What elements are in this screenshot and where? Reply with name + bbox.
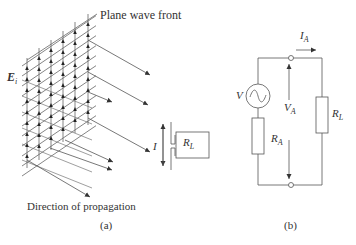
field-arrowhead <box>86 99 90 103</box>
load-resistor-b <box>316 97 328 133</box>
field-arrowhead <box>73 41 77 45</box>
field-arrowhead <box>49 81 53 85</box>
propagation-arrows <box>27 40 150 197</box>
field-arrowhead <box>49 114 53 118</box>
field-arrowhead <box>61 116 65 120</box>
equivalent-circuit <box>246 50 328 188</box>
field-arrowhead <box>61 72 65 76</box>
field-arrowhead <box>49 70 53 74</box>
propagation-arrow <box>88 118 150 152</box>
field-arrowhead <box>49 48 53 52</box>
wave-front-label: Plane wave front <box>100 9 181 21</box>
load-resistance-label: RL <box>332 108 343 119</box>
wave-front-line <box>22 160 92 188</box>
wave-front-line <box>22 96 92 124</box>
field-arrowhead <box>37 144 41 148</box>
field-arrowhead <box>61 61 65 65</box>
field-arrowhead <box>61 83 65 87</box>
propagation-arrow <box>88 92 112 102</box>
wave-front-line <box>22 66 96 116</box>
field-arrowhead <box>49 136 53 140</box>
voltage-symbol: V <box>284 101 291 113</box>
field-arrowhead <box>73 85 77 89</box>
field-arrowhead <box>86 44 90 48</box>
field-arrowhead <box>25 132 29 136</box>
antenna-resistance-label: RA <box>271 133 283 144</box>
field-arrowhead <box>86 33 90 37</box>
field-arrowhead <box>49 59 53 63</box>
caption-a: (a) <box>100 220 112 231</box>
current-label-a: I <box>153 141 157 152</box>
load-resistance-subscript: L <box>339 113 343 122</box>
field-arrowhead <box>37 89 41 93</box>
load-resistance-symbol: R <box>332 107 339 119</box>
wave-front-line <box>22 46 96 96</box>
field-arrowhead <box>73 118 77 122</box>
wave-front-line <box>22 26 96 76</box>
wave-front-line <box>22 80 92 108</box>
field-arrowhead <box>37 78 41 82</box>
source-label: V <box>236 90 243 101</box>
wave-front-line <box>22 16 96 66</box>
field-arrowhead <box>73 52 77 56</box>
field-arrowhead <box>25 88 29 92</box>
field-arrowhead <box>73 74 77 78</box>
field-arrowhead <box>86 66 90 70</box>
field-arrowhead <box>73 63 77 67</box>
wave-front-line <box>22 144 92 172</box>
e-field-label: Ei <box>7 71 17 83</box>
caption-b: (b) <box>284 220 297 231</box>
plane-wave-grid <box>22 14 97 188</box>
propagation-label: Direction of propagation <box>27 201 136 212</box>
field-arrowhead <box>25 99 29 103</box>
antenna-resistance-subscript: A <box>278 138 283 147</box>
current-label-b: IA <box>300 30 309 41</box>
propagation-arrow <box>27 160 90 197</box>
field-arrowhead <box>49 92 53 96</box>
wave-front-line <box>22 36 96 86</box>
field-arrowhead <box>61 50 65 54</box>
voltage-subscript: A <box>291 107 296 116</box>
field-arrowhead <box>86 77 90 81</box>
field-arrowhead <box>25 154 29 158</box>
antenna-resistor <box>252 118 264 154</box>
propagation-arrow <box>88 40 150 75</box>
propagation-arrow <box>88 72 148 105</box>
current-subscript-b: A <box>304 35 309 44</box>
e-field-subscript: i <box>15 77 17 86</box>
field-arrowhead <box>37 56 41 60</box>
field-arrowhead <box>73 96 77 100</box>
wave-front-line <box>22 56 96 106</box>
field-arrowhead <box>61 39 65 43</box>
field-arrowhead <box>25 77 29 81</box>
field-arrowhead <box>86 22 90 26</box>
e-field-symbol: E <box>7 70 15 84</box>
propagation-arrow <box>65 140 113 162</box>
voltage-label: VA <box>284 101 296 114</box>
terminal-top <box>289 56 294 61</box>
load-subscript-a: L <box>190 142 194 151</box>
field-arrowhead <box>37 67 41 71</box>
field-arrowhead <box>86 55 90 59</box>
load-label-a: RL <box>183 137 194 148</box>
terminal-bottom <box>289 183 294 188</box>
field-arrowhead <box>25 66 29 70</box>
load-symbol-a: R <box>183 136 190 148</box>
field-arrowhead <box>37 111 41 115</box>
antenna-resistance-symbol: R <box>271 132 278 144</box>
